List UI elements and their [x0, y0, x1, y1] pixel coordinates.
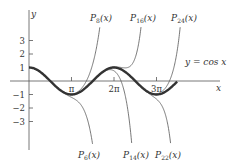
poly-label: P24(x)	[170, 13, 197, 24]
x-axis-label: x	[216, 83, 221, 93]
y-tick-label: 3	[20, 36, 25, 46]
poly-label: P22(x)	[154, 150, 181, 161]
top-labels: P8(x)P16(x)P24(x)	[89, 13, 197, 24]
y-tick-label: −3	[12, 117, 25, 127]
poly-label: P6(x)	[77, 150, 100, 161]
poly-label: P14(x)	[122, 150, 149, 161]
y-tick-label: −1	[12, 90, 25, 100]
poly-label: P16(x)	[129, 13, 156, 24]
cos-label: y = cos x	[184, 57, 226, 67]
poly-label: P8(x)	[89, 13, 112, 24]
y-tick-label: 1	[20, 63, 25, 73]
poly-curve-p14	[29, 68, 132, 143]
poly-curve-p6	[29, 68, 93, 144]
y-tick-label: −2	[12, 103, 25, 113]
poly-curve-p16	[29, 27, 141, 94]
x-tick-label: π	[69, 84, 75, 94]
x-tick-label: 2π	[109, 84, 120, 94]
y-axis-label: y	[30, 9, 37, 19]
taylor-chart: y x 321−1−2−3 π2π3π y = cos x P8(x)P16(x…	[0, 0, 228, 165]
y-tick-label: 2	[20, 49, 25, 59]
bottom-labels: P6(x)P14(x)P22(x)	[77, 150, 181, 161]
poly-curve-p22	[29, 68, 171, 144]
